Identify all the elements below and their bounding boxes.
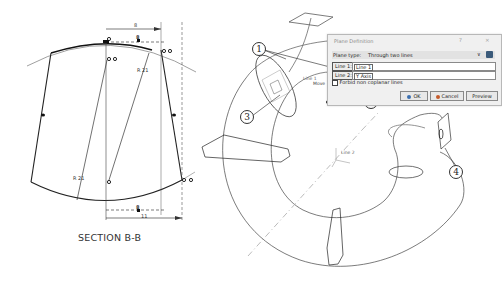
preview-label: Preview xyxy=(472,93,491,99)
plane-type-icon[interactable] xyxy=(486,51,493,58)
dim-top-small: 8 xyxy=(136,34,139,40)
forbid-noncoplanar-checkbox[interactable]: Forbid non coplanar lines xyxy=(332,79,403,86)
line1-field[interactable]: Line 1 xyxy=(352,62,496,71)
dim-bottom-small: 8 xyxy=(136,204,139,210)
label-line2: Line 2 xyxy=(341,150,355,155)
callout-1: 1 xyxy=(252,42,266,56)
line1-value: Line 1 xyxy=(354,64,373,71)
label-move: Move xyxy=(313,81,325,86)
dim-radius-upper: R 21 xyxy=(137,67,148,73)
section-caption: SECTION B-B xyxy=(78,232,141,243)
plane-type-select[interactable]: Through two lines xyxy=(368,52,413,58)
dim-top-width: 8 xyxy=(134,22,137,28)
plane-type-row: Plane type: Through two lines ∨ xyxy=(332,51,495,59)
checkbox-box[interactable] xyxy=(332,80,338,86)
help-button[interactable]: ? xyxy=(459,37,462,43)
ok-icon xyxy=(407,95,411,99)
dim-radius-lower: R 21 xyxy=(73,175,84,181)
preview-button[interactable]: Preview xyxy=(466,91,498,101)
close-button[interactable]: × xyxy=(485,37,490,43)
ok-button[interactable]: OK xyxy=(400,91,428,101)
ok-label: OK xyxy=(413,93,420,99)
cancel-icon xyxy=(436,95,440,99)
chevron-down-icon[interactable]: ∨ xyxy=(477,51,481,57)
cancel-label: Cancel xyxy=(442,93,459,99)
checkbox-label: Forbid non coplanar lines xyxy=(340,79,403,85)
constraint-markers xyxy=(107,37,192,183)
line2-row: Line 2: Y Axis xyxy=(332,71,495,79)
dialog-title: Plane Definition xyxy=(334,38,374,44)
plane-type-label: Plane type: xyxy=(333,52,361,58)
callout-4: 4 xyxy=(449,165,463,179)
cancel-button[interactable]: Cancel xyxy=(430,91,464,101)
dim-bottom-width: 11 xyxy=(141,213,147,219)
callout-3: 3 xyxy=(240,110,254,124)
midpoint-markers xyxy=(41,39,176,212)
line1-row: Line 1: Line 1 xyxy=(332,62,495,70)
plane-definition-dialog: Plane Definition ? × Plane type: Through… xyxy=(327,34,502,106)
